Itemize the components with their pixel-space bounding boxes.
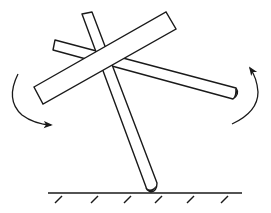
ground-hatch [155,196,162,203]
ground-hatch [55,196,62,203]
ground-hatch [221,196,228,203]
ground-hatch [91,196,98,203]
diagram-svg [0,0,271,213]
large-bar [34,12,176,104]
ground-hatch [187,196,194,203]
ground-hatch [124,196,131,203]
ground [48,193,242,203]
diagram-canvas: Three crossed rigid bars pivoting on a g… [0,0,271,213]
